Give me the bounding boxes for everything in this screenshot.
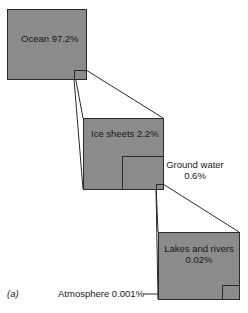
ground-water-name: Ground water (164, 159, 226, 170)
ocean-inset (74, 70, 87, 80)
lakes-rivers-label: Lakes and rivers 0.02% (160, 243, 238, 265)
atmosphere-square (222, 285, 240, 300)
ocean-box (7, 9, 87, 80)
atmosphere-label: Atmosphere 0.001% (58, 288, 144, 299)
panel-label: (a) (7, 288, 19, 299)
lakes-rivers-percent: 0.02% (160, 254, 238, 265)
ocean-label: Ocean 97.2% (21, 33, 79, 44)
water-distribution-diagram: Ocean 97.2% Ice sheets 2.2% Ground water… (0, 0, 248, 313)
ice-sheets-label: Ice sheets 2.2% (91, 128, 159, 139)
ground-water-percent: 0.6% (164, 170, 226, 181)
ground-water-label: Ground water 0.6% (164, 159, 226, 181)
ice-inset (156, 184, 164, 190)
lakes-rivers-name: Lakes and rivers (160, 243, 238, 254)
